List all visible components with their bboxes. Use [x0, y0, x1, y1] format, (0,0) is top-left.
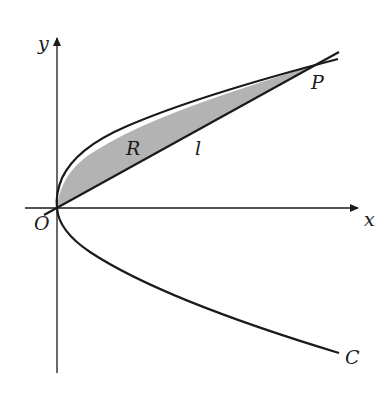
origin-label: O — [34, 212, 50, 234]
x-axis-label: x — [364, 208, 375, 230]
y-axis-label: y — [37, 32, 49, 54]
diagram-canvas: y x O R l P C — [0, 0, 389, 393]
curve-label: C — [345, 346, 360, 368]
line-l — [44, 52, 339, 215]
curve-c — [57, 59, 339, 353]
line-label: l — [195, 137, 201, 159]
point-label: P — [310, 71, 325, 93]
region-label: R — [125, 137, 140, 159]
